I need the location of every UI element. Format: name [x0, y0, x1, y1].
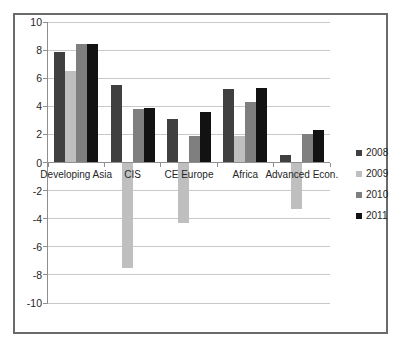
- bar-2011-advanced-econ: [313, 130, 324, 162]
- gridline: [48, 190, 330, 191]
- y-axis-label: -10: [18, 297, 42, 309]
- gridline: [48, 246, 330, 247]
- y-axis-label: -8: [18, 269, 42, 281]
- category-label-advanced-econ: Advanced Econ.: [256, 169, 348, 181]
- y-axis-label: -2: [18, 185, 42, 197]
- bar-2009-developing-asia: [65, 71, 76, 162]
- y-axis-label: 10: [18, 16, 42, 28]
- legend-label-2010: 2010: [366, 190, 388, 200]
- bar-2008-advanced-econ: [280, 155, 291, 162]
- chart-frame: 1086420-2-4-6-8-10Developing AsiaCISCE E…: [13, 13, 388, 334]
- bar-2011-cis: [144, 108, 155, 163]
- bar-2010-ce-europe: [189, 136, 200, 163]
- gridline: [48, 274, 330, 275]
- x-axis-tick: [48, 163, 49, 167]
- bar-2010-developing-asia: [76, 44, 87, 162]
- legend-item-2010: 2010: [356, 190, 388, 200]
- bar-2009-africa: [234, 136, 245, 163]
- bar-2011-developing-asia: [87, 44, 98, 162]
- screenshot-root: { "chart": { "background_color": "#fffff…: [0, 0, 402, 348]
- legend-label-2008: 2008: [366, 148, 388, 158]
- legend-swatch-2009: [356, 171, 362, 177]
- y-axis-label: -6: [18, 241, 42, 253]
- legend: 2008200920102011: [356, 148, 388, 232]
- bar-2010-africa: [245, 102, 256, 162]
- legend-label-2011: 2011: [366, 211, 388, 221]
- y-axis-label: 8: [18, 44, 42, 56]
- x-axis-tick: [160, 163, 161, 167]
- bar-2010-cis: [133, 109, 144, 162]
- bar-2010-advanced-econ: [302, 134, 313, 162]
- legend-swatch-2011: [356, 213, 362, 219]
- y-axis-label: 6: [18, 72, 42, 84]
- y-axis-label: -4: [18, 213, 42, 225]
- bar-2011-africa: [256, 88, 267, 162]
- legend-swatch-2010: [356, 192, 362, 198]
- x-axis-tick: [104, 163, 105, 167]
- bar-2008-cis: [111, 85, 122, 162]
- legend-swatch-2008: [356, 150, 362, 156]
- gridline: [48, 303, 330, 304]
- x-axis-tick: [273, 163, 274, 167]
- bar-2008-developing-asia: [54, 52, 65, 163]
- y-axis-label: 0: [18, 157, 42, 169]
- bar-2008-ce-europe: [167, 119, 178, 163]
- legend-item-2011: 2011: [356, 211, 388, 221]
- legend-item-2008: 2008: [356, 148, 388, 158]
- legend-label-2009: 2009: [366, 169, 388, 179]
- bar-2008-africa: [223, 89, 234, 162]
- plot-area: 1086420-2-4-6-8-10Developing AsiaCISCE E…: [48, 22, 330, 303]
- y-axis-label: 2: [18, 128, 42, 140]
- x-axis-tick: [217, 163, 218, 167]
- gridline: [48, 22, 330, 23]
- x-axis-tick: [330, 163, 331, 167]
- legend-item-2009: 2009: [356, 169, 388, 179]
- gridline: [48, 218, 330, 219]
- bar-2011-ce-europe: [200, 112, 211, 163]
- y-axis-label: 4: [18, 100, 42, 112]
